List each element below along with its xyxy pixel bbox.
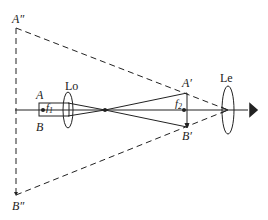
virtual-ray-top [16, 28, 228, 110]
microscope-diagram: A″ B″ A B Lo Le A′ B′ f1 f2 [0, 0, 268, 220]
f2-subscript: 2 [178, 102, 182, 111]
ray-to-B-prime [105, 110, 187, 127]
eye-icon [250, 104, 257, 116]
label-f2: f2 [175, 98, 182, 111]
crossing-point [103, 108, 107, 112]
label-A: A [36, 89, 43, 101]
label-A-double-prime: A″ [12, 13, 24, 25]
diagram-canvas [0, 0, 268, 220]
ray-obj-bottom [68, 110, 105, 116]
ray-obj-top [68, 103, 105, 110]
label-B-double-prime: B″ [12, 200, 24, 212]
virtual-ray-bottom [16, 110, 228, 195]
label-B-prime: B′ [182, 130, 192, 142]
label-f1: f1 [46, 102, 53, 115]
f1-subscript: 1 [49, 106, 53, 115]
focal-point-f1 [41, 108, 45, 112]
label-eyepiece-lens: Le [220, 72, 233, 84]
label-B: B [36, 121, 43, 133]
label-objective-lens: Lo [65, 80, 78, 92]
focal-point-f2 [182, 108, 186, 112]
label-A-prime: A′ [182, 77, 192, 89]
